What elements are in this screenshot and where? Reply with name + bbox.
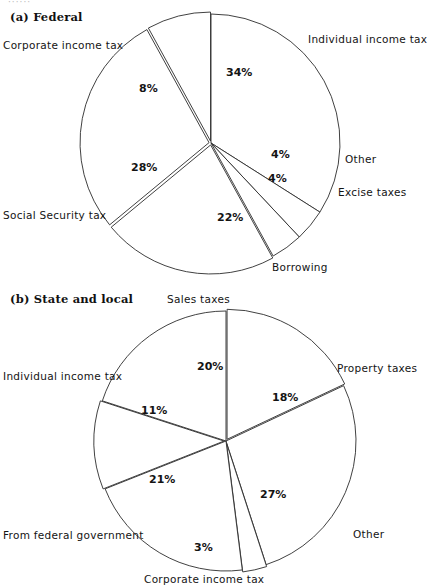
label-federal-excise-taxes: Excise taxes	[338, 186, 407, 198]
label-state-sales-taxes: Sales taxes	[167, 293, 230, 305]
value-federal-borrowing: 22%	[217, 211, 243, 224]
value-federal-individual-income-tax: 34%	[226, 66, 252, 79]
label-federal-borrowing: Borrowing	[272, 261, 328, 273]
pie-federal	[80, 12, 340, 274]
value-federal-excise-taxes: 4%	[268, 172, 287, 185]
value-state-from-federal-government: 21%	[149, 473, 175, 486]
label-state-other: Other	[353, 528, 384, 540]
value-state-individual-income-tax: 11%	[141, 404, 167, 417]
label-federal-social-security-tax: Social Security tax	[3, 209, 106, 221]
label-state-from-federal-government: From federal government	[3, 529, 144, 541]
label-federal-other: Other	[345, 153, 376, 165]
label-federal-individual-income-tax: Individual income tax	[308, 33, 427, 45]
value-federal-other: 4%	[271, 148, 290, 161]
value-federal-corporate-income-tax: 8%	[139, 82, 158, 95]
value-federal-social-security-tax: 28%	[131, 161, 157, 174]
value-state-sales-taxes: 20%	[197, 360, 223, 373]
label-state-individual-income-tax: Individual income tax	[3, 370, 122, 382]
value-state-other: 27%	[260, 488, 286, 501]
label-federal-corporate-income-tax: Corporate income tax	[3, 39, 123, 51]
value-state-property-taxes: 18%	[272, 391, 298, 404]
label-state-corporate-income-tax: Corporate income tax	[144, 573, 264, 585]
value-state-corporate-income-tax: 3%	[194, 541, 213, 554]
label-state-property-taxes: Property taxes	[337, 362, 417, 374]
